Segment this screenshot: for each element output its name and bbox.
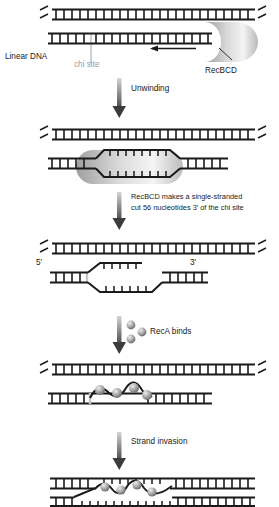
label-unwinding: Unwinding (131, 84, 169, 94)
reca-bead-s5-2 (116, 485, 125, 494)
dna-duplex-top-step3 (52, 244, 255, 254)
dna-duplex-top-step4 (52, 365, 255, 375)
label-reca-binds: RecA binds (150, 327, 191, 337)
dash-break-right-top4 (258, 361, 266, 373)
dna-duplex-lower-step1 (48, 34, 212, 44)
reca-bead-s5-3 (132, 480, 141, 489)
arrow-unwinding (113, 78, 127, 118)
step-4-reca-filament (40, 361, 266, 404)
step-2-unwinding (40, 126, 266, 184)
label-three-prime: 3′ (190, 258, 196, 268)
dna-duplex-lower-step5 (50, 498, 255, 507)
reca-bead-s4-2 (112, 388, 122, 398)
diagram-canvas (0, 0, 279, 507)
dna-duplex-top-step2 (52, 130, 255, 140)
reca-bead-s4-4 (142, 390, 152, 400)
step-3-cut (40, 240, 266, 292)
dash-break-right-top3 (258, 240, 266, 252)
dna-duplex-upper-step5 (50, 479, 255, 489)
label-chi-site: chi site (74, 60, 99, 70)
label-strand-invasion: Strand invasion (131, 437, 187, 447)
label-five-prime: 5′ (36, 258, 42, 268)
dash-break-left-top (40, 6, 48, 18)
recbcd-recombination-figure: Linear DNA chi site RecBCD Unwinding Rec… (0, 0, 279, 507)
label-cut-line-1: RecBCD makes a single-stranded (131, 193, 242, 202)
dna-duplex-right-arm-step3 (162, 273, 208, 283)
dash-break-right-top (258, 6, 266, 18)
reca-bead-annot-1 (127, 321, 136, 330)
reca-bead-s4-3 (129, 383, 139, 393)
arrow-strand-invasion (113, 432, 127, 470)
arrow-reca-binds (113, 316, 147, 354)
ss-bubble-lower-step3 (88, 283, 162, 293)
reca-bead-s4-1 (95, 385, 105, 395)
label-cut-line-2: cut 56 nucleotides 3′ of the chi site (131, 204, 244, 213)
label-recbcd: RecBCD (205, 66, 237, 76)
step-5-strand-invasion (50, 479, 255, 507)
dash-break-left-top3 (40, 240, 48, 252)
reca-bead-s5-4 (147, 487, 156, 496)
reca-bead-s5-1 (100, 482, 109, 491)
dna-duplex-lower-step4 (48, 394, 212, 404)
label-linear-dna: Linear DNA (5, 52, 47, 62)
dna-duplex-right-arm-step2 (180, 159, 228, 169)
dash-break-left-top2 (40, 126, 48, 138)
recbcd-enzyme-shape (205, 22, 258, 62)
dna-duplex-left-arm-step3 (50, 273, 88, 283)
travel-direction-arrow (150, 46, 196, 52)
dash-break-right-top2 (258, 126, 266, 138)
reca-bead-annot-2 (127, 335, 136, 344)
arrow-cut (113, 192, 127, 230)
step-1-linear-dna (40, 6, 266, 64)
dash-break-left-top4 (40, 361, 48, 373)
recbcd-enzyme-in-bubble (76, 150, 183, 184)
dna-duplex-top-step1 (52, 10, 255, 20)
reca-bead-annot-3 (138, 328, 147, 337)
ss-bubble-upper-step3 (88, 263, 142, 273)
